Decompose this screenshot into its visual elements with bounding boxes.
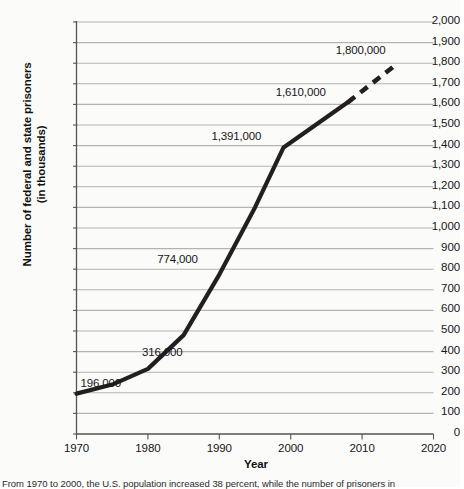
- x-axis-title: Year: [76, 458, 436, 470]
- y-tick-label: 1,300: [390, 158, 461, 170]
- y-tick-label: 300: [390, 364, 461, 376]
- y-axis-title-line1: Number of federal and state prisoners: [21, 62, 33, 266]
- y-axis-title-line2: (in thousands): [35, 125, 47, 203]
- y-tick-label: 1,100: [390, 199, 461, 211]
- data-point-label: 196,000: [81, 377, 122, 389]
- data-point-label: 1,391,000: [212, 130, 262, 142]
- y-tick-label: 500: [390, 323, 461, 335]
- x-tick-label: 1970: [47, 442, 107, 454]
- y-tick-label: 100: [390, 405, 461, 417]
- y-tick-label: 1,900: [390, 35, 461, 47]
- y-axis-title: Number of federal and state prisoners (i…: [20, 34, 49, 294]
- data-point-label: 316,000: [142, 346, 183, 358]
- y-tick-label: 1,600: [390, 96, 461, 108]
- y-tick-label: 1,400: [390, 138, 461, 150]
- x-tick-label: 2010: [332, 442, 392, 454]
- y-tick-label: 1,000: [390, 220, 461, 232]
- y-tick-label: 1,800: [390, 55, 461, 67]
- y-tick-label: 1,200: [390, 179, 461, 191]
- data-point-label: 1,610,000: [276, 86, 326, 98]
- y-tick-label: 1,500: [390, 117, 461, 129]
- figure-caption: From 1970 to 2000, the U.S. population i…: [0, 478, 460, 489]
- y-tick-label: 700: [390, 282, 461, 294]
- y-tick-label: 2,000: [390, 14, 461, 26]
- y-tick-label: 800: [390, 261, 461, 273]
- x-tick-label: 1980: [118, 442, 178, 454]
- x-tick-label: 2000: [261, 442, 321, 454]
- data-point-label: 774,000: [157, 253, 198, 265]
- x-tick-label: 1990: [189, 442, 249, 454]
- y-tick-label: 0: [390, 426, 461, 438]
- y-tick-label: 1,700: [390, 76, 461, 88]
- gridlines-group: [77, 22, 434, 413]
- data-point-label: 1,800,000: [336, 44, 386, 56]
- y-tick-label: 900: [390, 241, 461, 253]
- x-tick-label: 2020: [404, 442, 464, 454]
- x-tick-marks-group: [77, 434, 434, 440]
- y-tick-label: 200: [390, 385, 461, 397]
- y-tick-label: 400: [390, 344, 461, 356]
- y-tick-label: 600: [390, 302, 461, 314]
